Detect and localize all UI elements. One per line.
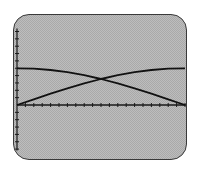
calculator-graph-screen xyxy=(13,14,187,160)
curve-increasing xyxy=(17,68,185,105)
curve-decreasing xyxy=(17,68,185,105)
curves xyxy=(17,68,185,105)
graph-plot xyxy=(14,15,187,160)
axes xyxy=(15,29,186,151)
